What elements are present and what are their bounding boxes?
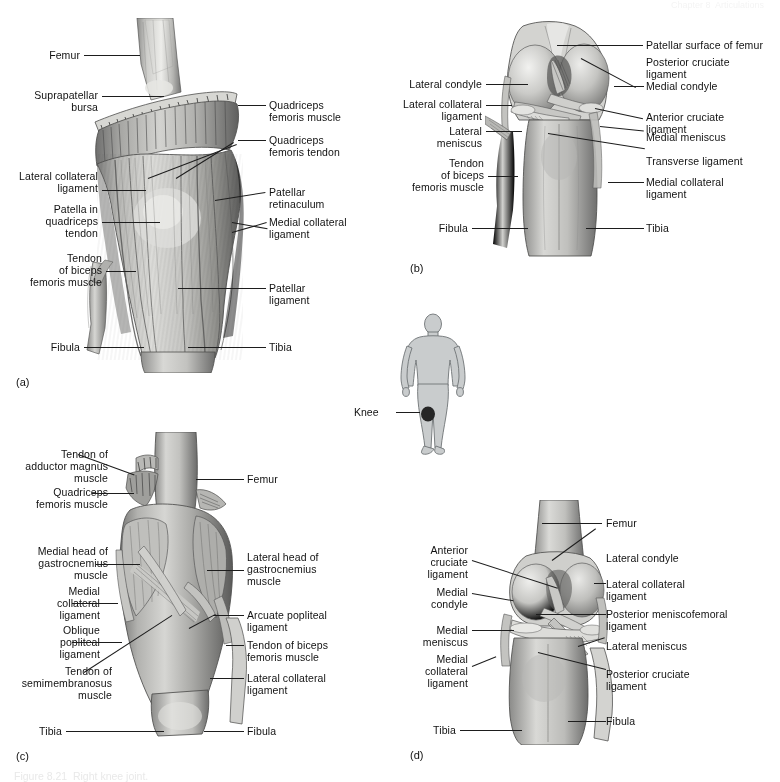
leader-line [488,176,518,177]
panel-d-label-posterior-meniscofemoral-ligament: Posterior meniscofemoralligament [606,608,756,632]
panel-c-label-medial-head-of-gastrocnemius-muscle: Medial head ofgastrocnemiusmuscle [0,545,108,582]
leader-line [238,140,266,141]
panel-b-label-lateral-collateral-ligament: Lateral collateralligament [390,98,482,122]
leader-line [72,642,122,643]
panel-a-label-lateral-collateral-ligament: Lateral collateralligament [0,170,98,194]
leader-line [102,190,146,191]
panel-d-label-anterior-cruciate-ligament: Anteriorcruciateligament [390,544,468,581]
panel-b-label-fibula: Fibula [390,222,468,234]
panel-c: Tendon ofadductor magnusmuscle Quadricep… [0,420,390,781]
panel-b-label-lateral-condyle: Lateral condyle [390,78,482,90]
leader-line [84,55,140,56]
panel-b-label-transverse-ligament: Transverse ligament [646,155,776,167]
panel-d-label-fibula: Fibula [606,715,686,727]
panel-c-label-lateral-head-of-gastrocnemius-muscle: Lateral head ofgastrocnemiusmuscle [247,551,367,588]
panel-b-label-tibia: Tibia [646,222,726,234]
knee-marker-label: Knee [354,406,379,418]
panel-d-label-medial-collateral-ligament: Medialcollateralligament [390,653,468,690]
panel-c-label-tendon-of-biceps-femoris-muscle: Tendon of bicepsfemoris muscle [247,639,377,663]
leader-line [213,615,244,616]
panel-a-label-patella-in-quadriceps-tendon: Patella inquadricepstendon [0,203,98,240]
panel-a-label-tibia: Tibia [269,341,349,353]
panel-c-label-quadriceps-femoris-muscle: Quadricepsfemoris muscle [0,486,108,510]
panel-a-label-patellar-ligament: Patellarligament [269,282,389,306]
panel-c-label-lateral-collateral-ligament: Lateral collateralligament [247,672,377,696]
panel-d-label-tibia: Tibia [390,724,456,736]
leader-line [92,493,134,494]
leader-line [96,564,140,565]
leader-line [536,614,606,615]
leader-line [568,721,606,722]
leader-line [594,583,606,584]
leader-line [66,731,164,732]
panel-c-label-arcuate-popliteal-ligament: Arcuate poplitealligament [247,609,377,633]
panel-b-label-medial-condyle: Medial condyle [646,80,766,92]
panel-d-label-lateral-condyle: Lateral condyle [606,552,726,564]
leader-line [586,228,644,229]
leader-line [460,730,522,731]
leader-line [542,523,602,524]
panel-a-label-quadriceps-femoris-muscle: Quadricepsfemoris muscle [269,99,389,123]
panel-d-label-medial-condyle: Medialcondyle [390,586,468,610]
panel-a-label-suprapatellar-bursa: Suprapatellarbursa [0,89,98,113]
leader-line [72,603,118,604]
leader-line [486,131,522,132]
leader-line [486,105,512,106]
panel-c-label-tendon-of-semimembranosus-muscle: Tendon ofsemimembranosusmuscle [0,665,112,702]
panel-a-label-fibula: Fibula [0,341,80,353]
leader-line [188,347,266,348]
leader-line [608,182,644,183]
leader-line [614,86,644,87]
leader-line [226,645,244,646]
panel-d-label-medial-meniscus: Medialmeniscus [390,624,468,648]
leader-line [84,347,144,348]
panel-b-label-medial-collateral-ligament: Medial collateralligament [646,176,776,200]
leader-line [196,479,244,480]
panel-b-label-patellar-surface-of-femur: Patellar surface of femur [646,39,780,51]
leader-line [557,45,643,46]
panel-a-label-medial-collateral-ligament: Medial collateralligament [269,216,389,240]
panel-d-label-lateral-meniscus: Lateral meniscus [606,640,736,652]
leader-line [396,412,420,413]
leader-line [238,105,266,106]
panel-d: Anteriorcruciateligament Medialcondyle M… [390,500,780,781]
panel-letter-c: (c) [16,750,29,762]
leader-line [486,84,528,85]
leader-line [102,96,164,97]
panel-a-label-patellar-retinaculum: Patellarretinaculum [269,186,389,210]
leader-line [102,222,160,223]
panel-c-label-tendon-of-adductor-magnus-muscle: Tendon ofadductor magnusmuscle [0,448,108,485]
panel-b-illustration [485,20,635,260]
panel-d-label-posterior-cruciate-ligament: Posterior cruciateligament [606,668,736,692]
leader-line [178,288,266,289]
panel-letter-a: (a) [16,376,29,388]
panel-b: Lateral condyle Lateral collateralligame… [390,0,780,300]
panel-a-label-femur: Femur [0,49,80,61]
panel-c-label-tibia: Tibia [0,725,62,737]
leader-line [472,630,514,631]
panel-a-label-tendon-of-biceps-femoris-muscle: Tendonof bicepsfemoris muscle [0,252,102,289]
panel-c-label-femur: Femur [247,473,327,485]
panel-a-label-quadriceps-femoris-tendon: Quadricepsfemoris tendon [269,134,389,158]
figure-caption: Figure 8.21 Right knee joint. [14,770,148,782]
panel-letter-b: (b) [410,262,423,274]
panel-a: Femur Suprapatellarbursa Lateral collate… [0,0,390,400]
panel-b-label-lateral-meniscus: Lateralmeniscus [390,125,482,149]
orientation-body-figure: Knee [378,312,488,462]
panel-c-label-fibula: Fibula [247,725,327,737]
panel-d-label-femur: Femur [606,517,686,529]
panel-letter-d: (d) [410,749,423,761]
panel-b-label-tendon-of-biceps-femoris-muscle: Tendonof bicepsfemoris muscle [390,157,484,194]
panel-b-label-medial-meniscus: Medial meniscus [646,131,776,143]
leader-line [207,570,244,571]
leader-line [210,678,244,679]
leader-line [472,228,528,229]
leader-line [204,731,244,732]
panel-d-label-lateral-collateral-ligament: Lateral collateralligament [606,578,736,602]
leader-line [106,271,136,272]
panel-b-label-posterior-cruciate-ligament: Posterior cruciateligament [646,56,776,80]
knee-marker [421,407,435,422]
body-silhouette [401,314,465,454]
